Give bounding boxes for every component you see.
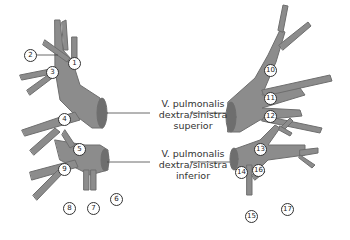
- pulmonary-veins-diagram: V. pulmonalis dextra/sinistra superior V…: [0, 0, 350, 240]
- label-superior: V. pulmonalis dextra/sinistra superior: [153, 98, 233, 131]
- marker-6: 6: [110, 193, 123, 206]
- label-line: dextra/sinistra: [153, 159, 233, 170]
- marker-11: 11: [264, 92, 277, 105]
- marker-17: 17: [281, 203, 294, 216]
- label-line: inferior: [153, 170, 233, 181]
- marker-3: 3: [46, 66, 59, 79]
- marker-16: 16: [252, 164, 265, 177]
- marker-10: 10: [264, 64, 277, 77]
- label-line: superior: [153, 120, 233, 131]
- marker-4: 4: [58, 113, 71, 126]
- marker-13: 13: [254, 143, 267, 156]
- marker-12: 12: [264, 110, 277, 123]
- marker-8: 8: [63, 202, 76, 215]
- marker-7: 7: [87, 202, 100, 215]
- label-line: dextra/sinistra: [153, 109, 233, 120]
- label-line: V. pulmonalis: [153, 98, 233, 109]
- label-line: V. pulmonalis: [153, 148, 233, 159]
- marker-2: 2: [24, 49, 37, 62]
- marker-5: 5: [73, 143, 86, 156]
- label-inferior: V. pulmonalis dextra/sinistra inferior: [153, 148, 233, 181]
- marker-14: 14: [235, 166, 248, 179]
- marker-1: 1: [68, 57, 81, 70]
- marker-9: 9: [58, 163, 71, 176]
- marker-15: 15: [245, 210, 258, 223]
